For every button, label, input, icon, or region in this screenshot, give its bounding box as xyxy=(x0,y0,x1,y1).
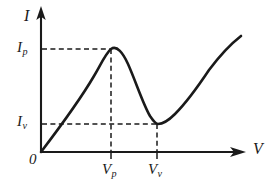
peak-current-subscript: p xyxy=(22,46,27,57)
valley-current-subscript: v xyxy=(22,120,27,131)
valley-current-label: Iv xyxy=(17,114,27,131)
tunnel-diode-iv-chart: I V 0 Ip Iv Vp Vv xyxy=(0,0,279,184)
valley-voltage-subscript: v xyxy=(157,168,162,179)
peak-voltage-label: Vp xyxy=(102,162,117,179)
x-axis-label: V xyxy=(253,141,263,157)
valley-voltage-symbol: V xyxy=(148,161,157,177)
chart-canvas xyxy=(0,0,279,184)
y-axis-label: I xyxy=(24,8,29,24)
origin-label: 0 xyxy=(29,152,37,167)
iv-curve-path xyxy=(41,36,241,152)
peak-voltage-symbol: V xyxy=(102,161,111,177)
valley-voltage-label: Vv xyxy=(148,162,162,179)
peak-voltage-subscript: p xyxy=(111,168,116,179)
peak-current-label: Ip xyxy=(17,40,27,57)
